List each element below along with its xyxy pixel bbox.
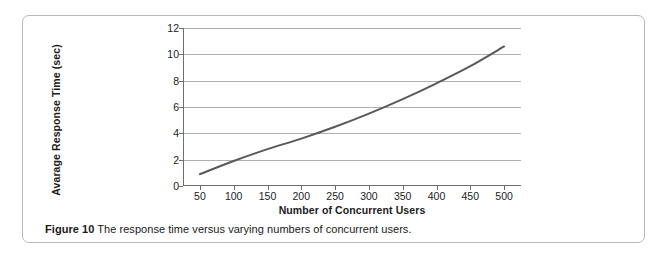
y-tick-mark [179, 54, 183, 55]
y-tick-label: 6 [155, 102, 179, 112]
y-tick-mark [179, 107, 183, 108]
figure-caption-label: Figure 10 [45, 223, 94, 235]
y-tick-label: 10 [155, 49, 179, 59]
y-tick-mark [179, 133, 183, 134]
series-line [200, 46, 504, 174]
y-tick-mark [179, 81, 183, 82]
y-tick-mark [179, 160, 183, 161]
y-axis-tick-labels: 024681012 [155, 28, 179, 186]
chart-figure: Avarage Response Time (sec) 024681012 50… [23, 16, 646, 206]
x-axis-title: Number of Concurrent Users [183, 204, 521, 216]
y-tick-mark [179, 28, 183, 29]
plot-area [183, 28, 521, 186]
y-tick-mark [179, 186, 183, 187]
line-series [183, 28, 521, 186]
figure-caption: Figure 10 The response time versus varyi… [45, 222, 605, 236]
x-axis-tick-labels: 50100150200250300350400450500 [183, 190, 521, 204]
figure-frame: Avarage Response Time (sec) 024681012 50… [22, 15, 645, 243]
y-axis-title: Avarage Response Time (sec) [50, 35, 62, 205]
y-tick-label: 8 [155, 76, 179, 86]
y-tick-label: 4 [155, 128, 179, 138]
x-tick-label: 500 [484, 190, 524, 202]
y-tick-label: 2 [155, 155, 179, 165]
y-tick-label: 12 [155, 23, 179, 33]
figure-caption-text: The response time versus varying numbers… [97, 223, 411, 235]
y-tick-label: 0 [155, 181, 179, 191]
